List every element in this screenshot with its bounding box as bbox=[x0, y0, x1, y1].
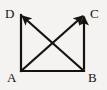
vertex-label-b: B bbox=[88, 71, 97, 84]
geometry-figure: D C A B bbox=[0, 0, 107, 90]
vertex-label-c: C bbox=[90, 7, 99, 20]
vertex-label-a: A bbox=[7, 71, 16, 84]
vertex-label-d: D bbox=[5, 7, 14, 20]
